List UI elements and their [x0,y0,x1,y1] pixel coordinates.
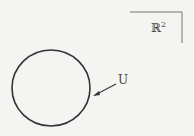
space-label: ℝ2 [151,20,166,35]
arrow-head-icon [93,91,100,96]
diagram-canvas: ℝ2 U [0,0,194,136]
set-circle [12,50,90,126]
set-label: U [118,73,128,87]
